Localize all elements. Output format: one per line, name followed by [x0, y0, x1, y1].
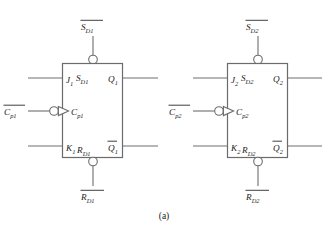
svg-text:RD1: RD1	[80, 192, 94, 204]
ff2-clock-inversion-bubble	[215, 107, 224, 116]
svg-text:SD1: SD1	[81, 22, 93, 34]
ff1-external-reset-label: RD1	[80, 190, 104, 203]
ff2-set-inversion-bubble	[254, 55, 263, 64]
ff2-external-reset-label: RD2	[245, 190, 269, 203]
figure-container: SD1 SD1 J1 Q1 Cp1 Cp1 K1	[0, 0, 328, 228]
flip-flop-2: SD2 SD2 J2 Q2 Cp2 Cp2 K2 RD2	[169, 20, 323, 203]
svg-text:SD2: SD2	[246, 22, 259, 34]
flip-flop-1: SD1 SD1 J1 Q1 Cp1 Cp1 K1	[4, 20, 159, 203]
svg-text:Cp1: Cp1	[4, 107, 17, 119]
svg-text:RD2: RD2	[245, 192, 260, 204]
ff1-set-inversion-bubble	[89, 55, 98, 64]
ff2-reset-inversion-bubble	[254, 157, 263, 166]
ff1-external-set-label: SD1	[81, 20, 104, 33]
ff2-external-set-label: SD2	[246, 20, 269, 33]
ff1-external-clock-label: Cp1	[4, 105, 26, 118]
ff1-clock-inversion-bubble	[50, 107, 59, 116]
ff1-reset-inversion-bubble	[89, 157, 98, 166]
ff2-external-clock-label: Cp2	[169, 105, 191, 118]
svg-text:Cp2: Cp2	[169, 107, 182, 119]
figure-caption: (a)	[159, 211, 170, 222]
